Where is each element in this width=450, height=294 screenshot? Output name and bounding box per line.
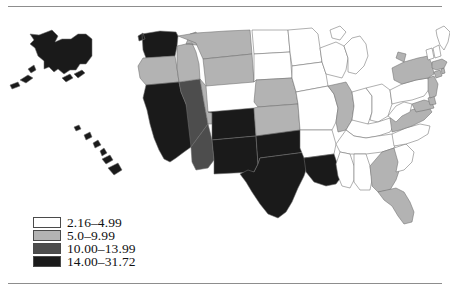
state-ak: Alaska — [10, 30, 92, 89]
us-map: AlaskaHawaiiWashingtonOregonCaliforniaNe… — [0, 12, 450, 230]
state-mn: Minnesota — [288, 28, 322, 66]
figure-bottom-rule — [8, 283, 442, 284]
state-nh: New Hampshire — [433, 45, 441, 58]
state-la: Louisiana — [304, 154, 342, 186]
figure-top-rule — [8, 6, 442, 7]
choropleth-figure: AlaskaHawaiiWashingtonOregonCaliforniaNe… — [0, 0, 450, 294]
state-nm: New Mexico — [212, 136, 258, 174]
state-wy: Wyoming — [203, 54, 254, 86]
state-nj: New Jersey — [428, 76, 438, 98]
legend-label-4: 14.00–31.72 — [67, 255, 136, 268]
legend-swatch-2 — [33, 230, 61, 241]
state-sc: South Carolina — [394, 144, 414, 172]
us-map-svg: AlaskaHawaiiWashingtonOregonCaliforniaNe… — [0, 12, 450, 230]
state-ne: Nebraska — [254, 78, 298, 107]
state-ar: Arkansas — [300, 130, 336, 158]
state-sd: South Dakota — [254, 52, 292, 82]
state-al: Alabama — [354, 154, 372, 190]
state-nd: North Dakota — [252, 30, 290, 54]
legend-row: 14.00–31.72 — [33, 255, 233, 268]
state-ms: Mississippi — [336, 152, 354, 188]
state-mo: Missouri — [296, 86, 338, 130]
state-ct: Connecticut — [434, 70, 442, 78]
state-fl: Florida — [378, 188, 414, 224]
state-co: Colorado — [208, 108, 256, 140]
legend-swatch-1 — [33, 217, 61, 228]
state-hi: Hawaii — [74, 125, 122, 175]
legend-swatch-3 — [33, 243, 61, 254]
state-wa: Washington — [138, 31, 178, 58]
state-ri: Rhode Island — [441, 68, 445, 74]
legend: 2.16–4.99 5.0–9.99 10.00–13.99 14.00–31.… — [33, 216, 233, 268]
legend-swatch-4 — [33, 256, 61, 267]
state-ga: Georgia — [370, 148, 400, 192]
state-ma: Massachusetts — [432, 59, 447, 70]
state-or: Oregon — [138, 56, 179, 85]
legend-row: 2.16–4.99 — [33, 216, 233, 229]
